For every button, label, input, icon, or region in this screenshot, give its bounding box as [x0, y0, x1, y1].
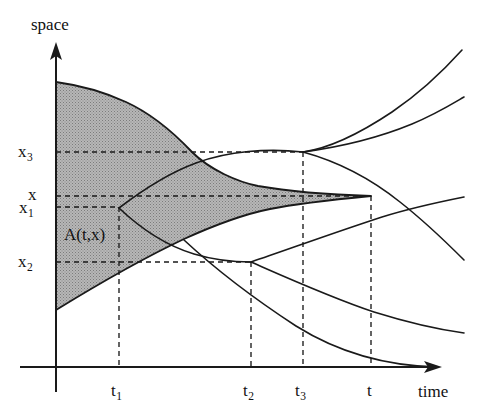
- tick-sub-x2: 2: [27, 261, 33, 273]
- tick-sub-t1: 1: [116, 390, 122, 402]
- tick-sub-t3: 3: [300, 390, 306, 402]
- far-lower-characteristic-curve: [184, 240, 438, 367]
- tick-label-x1: x1: [19, 199, 33, 216]
- tick-label-t2: t2: [243, 382, 253, 399]
- lower-branch-descending-curve: [251, 262, 464, 333]
- tick-base-x2: x: [18, 252, 27, 271]
- figure-canvas: [0, 0, 478, 418]
- tick-sub-x3: 3: [27, 151, 33, 163]
- time-axis-title: time: [418, 383, 448, 400]
- tick-label-t1: t1: [111, 382, 121, 399]
- upper-branch-steep-curve: [303, 50, 462, 152]
- upper-branch-descending-curve: [303, 152, 464, 260]
- tick-base-x3: x: [18, 142, 27, 161]
- space-axis-title: space: [31, 16, 69, 33]
- tick-label-t: t: [367, 382, 372, 399]
- tick-label-x2: x2: [18, 253, 32, 270]
- upper-branch-shallow-curve: [303, 97, 464, 152]
- tick-base-x1: x: [19, 198, 28, 217]
- attainable-region-label: A(t,x): [64, 226, 105, 243]
- tick-sub-x1: 1: [28, 207, 34, 219]
- space-time-figure: space time x3 x x1 x2 t1 t2 t3 t A(t,x): [0, 0, 478, 418]
- tick-base-t: t: [367, 381, 372, 400]
- tick-sub-t2: 2: [248, 390, 254, 402]
- tick-label-t3: t3: [295, 382, 305, 399]
- tick-label-x3: x3: [18, 143, 32, 160]
